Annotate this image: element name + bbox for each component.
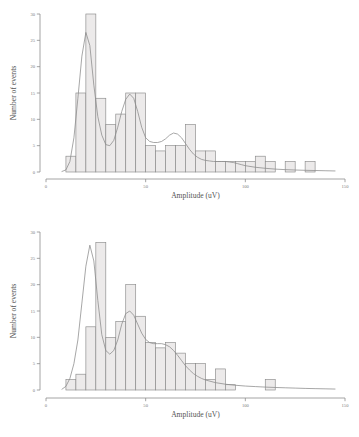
histogram-bar — [116, 114, 126, 172]
histogram-bar — [106, 337, 116, 390]
x-tick-label: 150 — [342, 184, 350, 189]
y-tick-label: 25 — [30, 38, 35, 43]
histogram-bar — [166, 343, 176, 390]
y-tick-label: 0 — [33, 170, 36, 175]
histogram-bar — [255, 156, 265, 172]
histogram-bar — [66, 156, 76, 172]
histogram-bar — [116, 322, 126, 390]
histogram-bar — [215, 369, 225, 390]
x-axis-title: Amplitude (uV) — [171, 191, 220, 200]
chart-panel-bottom: 050100150Amplitude (uV)051015202530Numbe… — [0, 214, 359, 437]
histogram-bar — [285, 161, 295, 172]
y-axis-title: Number of events — [9, 66, 18, 120]
histogram-bar — [265, 379, 275, 390]
y-tick-label: 5 — [33, 361, 36, 366]
y-tick-label: 20 — [30, 282, 35, 287]
bars-group — [66, 14, 315, 172]
x-tick-label: 100 — [242, 403, 250, 408]
histogram-bar — [156, 348, 166, 390]
x-tick-label: 50 — [143, 184, 148, 189]
y-tick-label: 10 — [30, 335, 35, 340]
histogram-bar — [126, 285, 136, 390]
histogram-bar — [156, 151, 166, 172]
histogram-bar — [136, 316, 146, 390]
histogram-bar — [86, 327, 96, 390]
histogram-bar — [225, 385, 235, 390]
y-axis-title: Number of events — [9, 284, 18, 338]
histogram-bar — [96, 243, 106, 390]
bars-group — [66, 243, 275, 390]
histogram-bar — [146, 343, 156, 390]
y-tick-label: 25 — [30, 256, 35, 261]
histogram-bar — [106, 125, 116, 172]
x-tick-label: 100 — [242, 184, 250, 189]
histogram-bar — [215, 161, 225, 172]
histogram-bar — [126, 93, 136, 172]
y-tick-label: 10 — [30, 117, 35, 122]
histogram-bar — [265, 161, 275, 172]
x-axis-title: Amplitude (uV) — [171, 410, 220, 419]
histogram-bar — [136, 93, 146, 172]
y-tick-label: 20 — [30, 64, 35, 69]
x-tick-label: 0 — [45, 184, 48, 189]
histogram-bar — [166, 146, 176, 172]
y-tick-label: 30 — [30, 230, 35, 235]
y-tick-label: 0 — [33, 388, 36, 393]
x-tick-label: 150 — [342, 403, 350, 408]
histogram-bar — [235, 161, 245, 172]
y-tick-label: 15 — [30, 91, 35, 96]
histogram-bottom-svg: 050100150Amplitude (uV)051015202530Numbe… — [0, 214, 359, 437]
y-tick-label: 15 — [30, 309, 35, 314]
histogram-bar — [146, 146, 156, 172]
histogram-bar — [196, 364, 206, 390]
histogram-bar — [66, 379, 76, 390]
x-tick-label: 0 — [45, 403, 48, 408]
histogram-bar — [225, 161, 235, 172]
histogram-top-svg: 050100150Amplitude (uV)051015202530Numbe… — [0, 0, 359, 214]
histogram-bar — [176, 146, 186, 172]
y-tick-label: 30 — [30, 12, 35, 17]
figure-container: 050100150Amplitude (uV)051015202530Numbe… — [0, 0, 359, 437]
histogram-bar — [96, 98, 106, 172]
histogram-bar — [76, 374, 86, 390]
y-tick-label: 5 — [33, 143, 36, 148]
x-tick-label: 50 — [143, 403, 148, 408]
histogram-bar — [196, 151, 206, 172]
chart-panel-top: 050100150Amplitude (uV)051015202530Numbe… — [0, 0, 359, 214]
histogram-bar — [186, 125, 196, 172]
